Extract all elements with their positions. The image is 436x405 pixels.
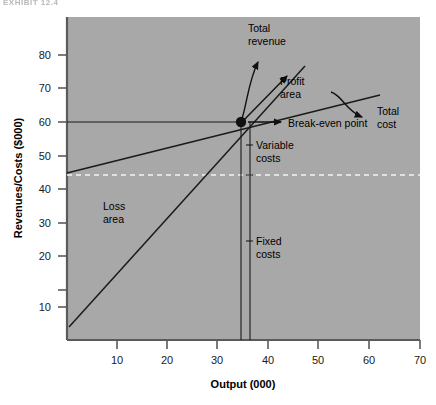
x-tick-label: 40 bbox=[262, 354, 274, 366]
y-axis-ticks bbox=[58, 55, 67, 307]
x-tick-label: 10 bbox=[111, 354, 123, 366]
y-tick-label: 80 bbox=[39, 49, 51, 61]
annotation-label-line1: Loss bbox=[103, 200, 125, 212]
annotation-fixed-costs: Fixed costs bbox=[256, 235, 282, 260]
annotation-break-even-point: Break-even point bbox=[288, 117, 367, 129]
annotation-label-line2: costs bbox=[256, 152, 281, 164]
x-axis-ticks bbox=[117, 340, 420, 349]
annotation-profit-area: Profit area bbox=[280, 75, 305, 100]
plot-area-background bbox=[67, 17, 420, 340]
x-tick-label: 60 bbox=[363, 354, 375, 366]
breakeven-chart-figure: EXHIBIT 12.4 80 70 60 50 bbox=[0, 0, 436, 405]
annotation-label-line2: cost bbox=[377, 118, 396, 130]
y-tick-label: 60 bbox=[39, 116, 51, 128]
chart-svg: 80 70 60 50 40 30 20 10 Revenues/Costs (… bbox=[0, 0, 436, 405]
annotation-label-line1: Fixed bbox=[256, 235, 282, 247]
annotation-label-line2: costs bbox=[256, 248, 281, 260]
annotation-label-line2: revenue bbox=[248, 35, 286, 47]
annotation-label-line1: Total bbox=[248, 22, 270, 34]
y-tick-label: 30 bbox=[39, 217, 51, 229]
figure-header-text: EXHIBIT 12.4 bbox=[3, 0, 58, 7]
x-tick-label: 50 bbox=[312, 354, 324, 366]
annotation-label-line1: Total bbox=[377, 105, 399, 117]
annotation-total-cost: Total cost bbox=[377, 105, 399, 130]
x-axis-title: Output (000) bbox=[211, 378, 276, 390]
y-tick-label: 70 bbox=[39, 82, 51, 94]
annotation-label-line1: Variable bbox=[256, 139, 294, 151]
annotation-label-line1: Break-even point bbox=[288, 117, 367, 129]
annotation-label-line2: area bbox=[103, 213, 124, 225]
y-tick-label: 50 bbox=[39, 150, 51, 162]
y-axis-title: Revenues/Costs ($000) bbox=[12, 117, 24, 238]
annotation-label-line2: area bbox=[280, 88, 301, 100]
annotation-loss-area: Loss area bbox=[103, 200, 125, 225]
x-tick-label: 30 bbox=[211, 354, 223, 366]
x-tick-label: 20 bbox=[161, 354, 173, 366]
y-tick-label: 20 bbox=[39, 250, 51, 262]
y-tick-label: 40 bbox=[39, 183, 51, 195]
y-tick-labels: 80 70 60 50 40 30 20 10 bbox=[39, 49, 51, 313]
y-tick-label: 10 bbox=[39, 301, 51, 313]
x-tick-labels: 10 20 30 40 50 60 70 bbox=[111, 354, 426, 366]
x-tick-label: 70 bbox=[414, 354, 426, 366]
annotation-label-line1: Profit bbox=[280, 75, 305, 87]
